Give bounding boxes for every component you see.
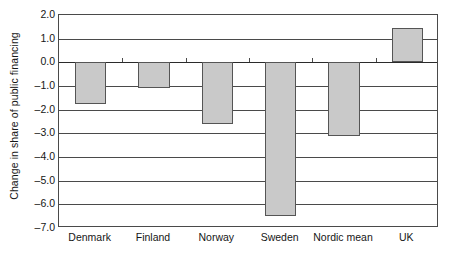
y-axis-tick-labels: 2.01.00.0–1.0–2.0–3.0–4.0–5.0–6.0–7.0 — [26, 0, 58, 261]
y-axis-tick-label: –3.0 — [35, 126, 55, 138]
bar-chart-figure: Change in share of public financing 2.01… — [0, 0, 455, 261]
y-axis-tick-label: –4.0 — [35, 150, 55, 162]
plot-area — [58, 14, 438, 227]
x-axis-category-label: Norway — [199, 231, 235, 243]
x-axis-category-label: Finland — [136, 231, 170, 243]
x-axis-category-label: Denmark — [68, 231, 111, 243]
y-axis-tick-label: –6.0 — [35, 197, 55, 209]
x-axis-category-label: UK — [399, 231, 414, 243]
x-axis-category-label: Sweden — [261, 231, 299, 243]
y-axis-tick-label: 0.0 — [40, 55, 55, 67]
bar — [202, 62, 234, 124]
y-axis-title-text: Change in share of public financing — [8, 32, 20, 200]
bar — [75, 62, 107, 103]
y-axis-tick-label: 2.0 — [40, 8, 55, 20]
y-axis-tick-label: –7.0 — [35, 221, 55, 233]
y-axis-tick-label: –2.0 — [35, 103, 55, 115]
y-axis-tick-label: –1.0 — [35, 79, 55, 91]
x-axis-category-label: Nordic mean — [313, 231, 373, 243]
y-axis-tick-label: –5.0 — [35, 174, 55, 186]
bar — [328, 62, 360, 135]
bar — [392, 28, 424, 62]
y-axis-title: Change in share of public financing — [0, 0, 28, 232]
bar — [265, 62, 297, 216]
x-axis-category-labels: DenmarkFinlandNorwaySwedenNordic meanUK — [58, 231, 438, 253]
bar — [138, 62, 170, 88]
bars — [59, 15, 437, 226]
y-axis-tick-label: 1.0 — [40, 32, 55, 44]
